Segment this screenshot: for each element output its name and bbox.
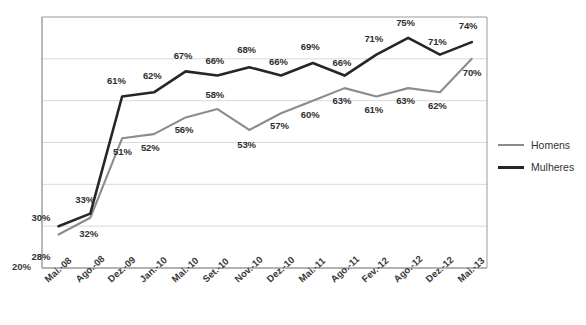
data-label-homens-5: 58% xyxy=(205,90,224,100)
data-label-mulheres-12: 71% xyxy=(428,37,447,47)
data-label-mulheres-7: 66% xyxy=(269,57,288,67)
data-label-mulheres-2: 61% xyxy=(107,76,126,86)
data-label-homens-0: 28% xyxy=(32,252,51,262)
data-label-mulheres-4: 67% xyxy=(174,51,193,61)
data-label-mulheres-6: 68% xyxy=(237,45,256,55)
line-chart: 20% 28%32%51%52%56%58%53%57%60%63%61%63%… xyxy=(0,0,586,325)
data-label-homens-2: 51% xyxy=(113,147,132,157)
data-label-homens-9: 63% xyxy=(333,96,352,106)
data-label-mulheres-8: 69% xyxy=(301,42,320,52)
data-label-mulheres-10: 71% xyxy=(364,34,383,44)
data-label-mulheres-1: 33% xyxy=(75,195,94,205)
data-label-homens-6: 53% xyxy=(237,140,256,150)
data-label-mulheres-5: 66% xyxy=(205,56,224,66)
data-label-mulheres-13: 74% xyxy=(459,21,478,31)
data-label-homens-8: 60% xyxy=(301,110,320,120)
data-label-mulheres-9: 66% xyxy=(333,58,352,68)
data-label-homens-7: 57% xyxy=(270,121,289,131)
data-label-mulheres-11: 75% xyxy=(396,18,415,28)
legend-label-homens: Homens xyxy=(531,139,570,151)
data-label-mulheres-0: 30% xyxy=(32,213,51,223)
chart-legend: Homens Mulheres xyxy=(498,134,582,178)
legend-swatch-homens xyxy=(498,144,524,146)
data-label-homens-3: 52% xyxy=(141,143,160,153)
legend-swatch-mulheres xyxy=(498,166,524,169)
legend-item-mulheres: Mulheres xyxy=(498,156,582,178)
data-label-homens-10: 61% xyxy=(364,105,383,115)
series-line-mulheres xyxy=(59,38,472,226)
data-label-mulheres-3: 62% xyxy=(143,71,162,81)
y-axis-tick-20: 20% xyxy=(12,262,31,272)
legend-label-mulheres: Mulheres xyxy=(531,161,574,173)
data-label-homens-12: 62% xyxy=(428,101,447,111)
data-label-homens-13: 70% xyxy=(463,68,482,78)
legend-item-homens: Homens xyxy=(498,134,582,156)
data-label-homens-11: 63% xyxy=(396,96,415,106)
data-label-homens-4: 56% xyxy=(175,125,194,135)
data-label-homens-1: 32% xyxy=(79,229,98,239)
